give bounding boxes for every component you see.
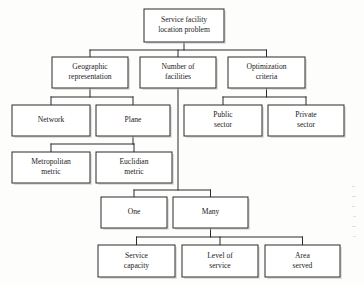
- node-optimization-criteria[interactable]: Optimizationcriteria: [228, 57, 307, 90]
- node-label-geographic-representation: Geographic: [72, 62, 108, 71]
- node-geographic-representation[interactable]: Geographicrepresentation: [52, 57, 130, 90]
- node-label-level-of-service: Level of: [207, 251, 233, 260]
- node-label-number-of-facilities: facilities: [165, 72, 191, 81]
- node-many[interactable]: Many: [173, 197, 250, 230]
- node-label-plane: Plane: [125, 115, 143, 124]
- node-area-served[interactable]: Areaserved: [265, 245, 342, 279]
- node-euclidian-metric[interactable]: Euclidianmetric: [96, 152, 174, 185]
- node-metropolitan-metric[interactable]: Metropolitanmetric: [12, 152, 92, 185]
- diagram-root: Service facilitylocation problemGeograph…: [0, 0, 364, 285]
- node-label-root: location problem: [158, 25, 210, 34]
- node-service-capacity[interactable]: Servicecapacity: [98, 245, 177, 279]
- edge-group-root-to-branches: [90, 42, 267, 57]
- node-label-optimization-criteria: criteria: [256, 72, 278, 81]
- scan-speck: [352, 226, 356, 227]
- node-label-service-capacity: Service: [125, 251, 148, 260]
- scan-artifact-layer: [352, 186, 356, 237]
- scan-speck: [353, 216, 356, 217]
- node-label-root: Service facility: [161, 15, 207, 24]
- node-label-many: Many: [202, 207, 220, 216]
- node-label-area-served: served: [293, 261, 313, 270]
- edge-group-many-to-attributes: [137, 228, 303, 245]
- edge-group-plane-to-metrics: [51, 136, 134, 152]
- hierarchy-diagram: Service facilitylocation problemGeograph…: [0, 0, 364, 285]
- node-label-optimization-criteria: Optimization: [246, 62, 286, 71]
- node-label-euclidian-metric: Euclidian: [119, 157, 148, 166]
- node-one[interactable]: One: [101, 197, 169, 230]
- node-label-public-sector: Public: [213, 110, 233, 119]
- node-label-metropolitan-metric: metric: [41, 167, 61, 176]
- node-label-network: Network: [38, 115, 65, 124]
- scan-speck: [352, 196, 356, 197]
- node-label-private-sector: Private: [295, 110, 317, 119]
- node-root[interactable]: Service facilitylocation problem: [144, 9, 226, 44]
- node-label-level-of-service: service: [209, 261, 231, 270]
- scan-speck: [352, 206, 355, 207]
- scan-speck: [352, 186, 355, 187]
- node-label-public-sector: sector: [214, 120, 233, 129]
- node-label-area-served: Area: [295, 251, 310, 260]
- node-label-metropolitan-metric: Metropolitan: [31, 157, 71, 166]
- scan-speck: [353, 236, 356, 237]
- edge-group-optimization-to-sectors: [223, 88, 306, 105]
- node-plane[interactable]: Plane: [96, 105, 172, 138]
- node-label-number-of-facilities: Number of: [161, 62, 195, 71]
- node-label-one: One: [128, 207, 141, 216]
- node-number-of-facilities[interactable]: Number offacilities: [140, 57, 218, 90]
- node-label-euclidian-metric: metric: [124, 167, 144, 176]
- edge-group-geographic-to-representations: [51, 88, 133, 105]
- node-level-of-service[interactable]: Level ofservice: [182, 245, 260, 279]
- node-label-private-sector: sector: [297, 120, 316, 129]
- node-private-sector[interactable]: Privatesector: [268, 105, 346, 138]
- node-public-sector[interactable]: Publicsector: [184, 105, 264, 138]
- node-network[interactable]: Network: [12, 105, 92, 138]
- node-label-geographic-representation: representation: [68, 72, 111, 81]
- node-label-service-capacity: capacity: [124, 261, 149, 270]
